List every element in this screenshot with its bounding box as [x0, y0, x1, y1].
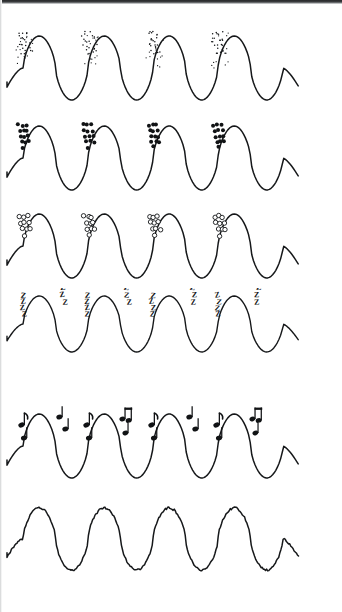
dot-marker	[24, 39, 26, 41]
dot-marker	[91, 59, 92, 60]
dot-marker	[154, 122, 158, 126]
dot-marker	[90, 58, 91, 59]
dot-marker	[151, 32, 153, 34]
open-circle-marker	[27, 220, 31, 224]
dot-marker	[82, 128, 86, 132]
dot-marker	[149, 134, 153, 138]
wave-row-row-stipple	[0, 20, 342, 116]
wave-decoration-group	[16, 31, 229, 69]
dot-marker	[155, 52, 156, 53]
open-circle-marker	[152, 233, 156, 237]
dot-marker	[152, 40, 154, 42]
dot-marker	[217, 44, 219, 46]
dot-marker	[148, 33, 150, 35]
dot-marker	[86, 146, 90, 150]
dot-marker	[151, 129, 155, 133]
dot-marker	[25, 45, 27, 47]
dot-marker	[89, 31, 91, 33]
music-note-glyph	[122, 423, 129, 437]
dot-marker	[216, 33, 218, 35]
open-circle-marker	[223, 227, 227, 231]
dot-marker	[226, 35, 227, 36]
dot-marker	[84, 31, 86, 32]
dot-marker	[86, 41, 88, 43]
open-circle-marker	[222, 221, 226, 225]
dot-marker	[159, 51, 161, 53]
dot-marker	[29, 42, 30, 43]
dot-marker	[91, 62, 92, 63]
dot-marker	[19, 44, 20, 45]
dot-marker	[17, 46, 18, 47]
dot-marker	[22, 32, 24, 34]
music-note-glyph	[56, 406, 64, 420]
dot-marker	[17, 63, 18, 64]
wave-curve	[7, 507, 299, 571]
dot-marker	[216, 128, 220, 132]
dot-marker	[86, 46, 88, 48]
dot-marker	[84, 139, 88, 143]
dot-marker	[95, 63, 96, 64]
dot-marker	[94, 37, 96, 39]
dot-marker	[92, 37, 93, 38]
dot-marker	[25, 41, 27, 43]
dot-marker	[96, 55, 97, 56]
letter-z-glyph: Z	[215, 309, 221, 318]
music-note-glyph	[20, 427, 28, 441]
open-circle-marker	[22, 234, 26, 238]
wave-row-row-bold-dots	[0, 110, 342, 206]
dot-marker	[19, 35, 21, 37]
dot-marker	[149, 140, 153, 144]
dot-marker	[26, 32, 28, 34]
music-note-glyph	[62, 418, 70, 432]
open-circle-marker	[28, 227, 32, 231]
wave-curve	[7, 36, 298, 100]
dot-marker	[146, 57, 147, 58]
dot-marker	[226, 48, 227, 49]
dot-marker	[162, 40, 163, 41]
music-note-glyph	[252, 423, 259, 437]
dot-marker	[222, 40, 224, 42]
open-circle-marker	[81, 214, 85, 218]
wave-row-row-jagged	[0, 496, 342, 588]
dot-marker	[157, 52, 158, 53]
dot-marker	[150, 45, 152, 47]
dot-marker	[94, 57, 95, 58]
letter-z-glyph: Z	[254, 297, 260, 306]
dot-marker	[83, 39, 85, 41]
dot-marker	[157, 58, 158, 59]
dot-marker	[218, 139, 222, 143]
dot-marker	[211, 65, 212, 66]
dot-marker	[83, 135, 87, 139]
dot-marker	[147, 124, 151, 128]
music-note-glyph	[213, 413, 223, 428]
dot-marker	[32, 50, 34, 52]
dot-marker	[20, 44, 22, 46]
dot-marker	[16, 49, 17, 50]
dot-marker	[20, 37, 22, 39]
dot-marker	[220, 52, 222, 54]
dot-marker	[157, 44, 159, 46]
dot-marker	[213, 67, 214, 68]
dot-marker	[222, 31, 224, 32]
dot-marker	[161, 55, 162, 56]
dot-marker	[88, 134, 92, 138]
dot-marker	[213, 62, 214, 63]
dot-marker	[160, 56, 161, 57]
dot-marker	[215, 32, 217, 34]
music-note-glyph	[186, 406, 194, 420]
dot-marker	[23, 140, 27, 144]
open-circle-marker	[17, 214, 21, 218]
dot-marker	[223, 50, 224, 51]
wave-decoration-group	[17, 213, 227, 238]
dot-marker	[29, 47, 31, 49]
open-circle-marker	[220, 215, 224, 219]
dot-marker	[22, 47, 24, 49]
dot-marker	[26, 37, 27, 38]
dot-marker	[222, 139, 226, 143]
dot-marker	[152, 31, 154, 33]
dot-marker	[92, 35, 94, 37]
dot-marker	[30, 50, 32, 52]
dot-marker	[220, 40, 221, 41]
dot-marker	[88, 40, 90, 42]
music-note-glyph	[148, 413, 158, 428]
